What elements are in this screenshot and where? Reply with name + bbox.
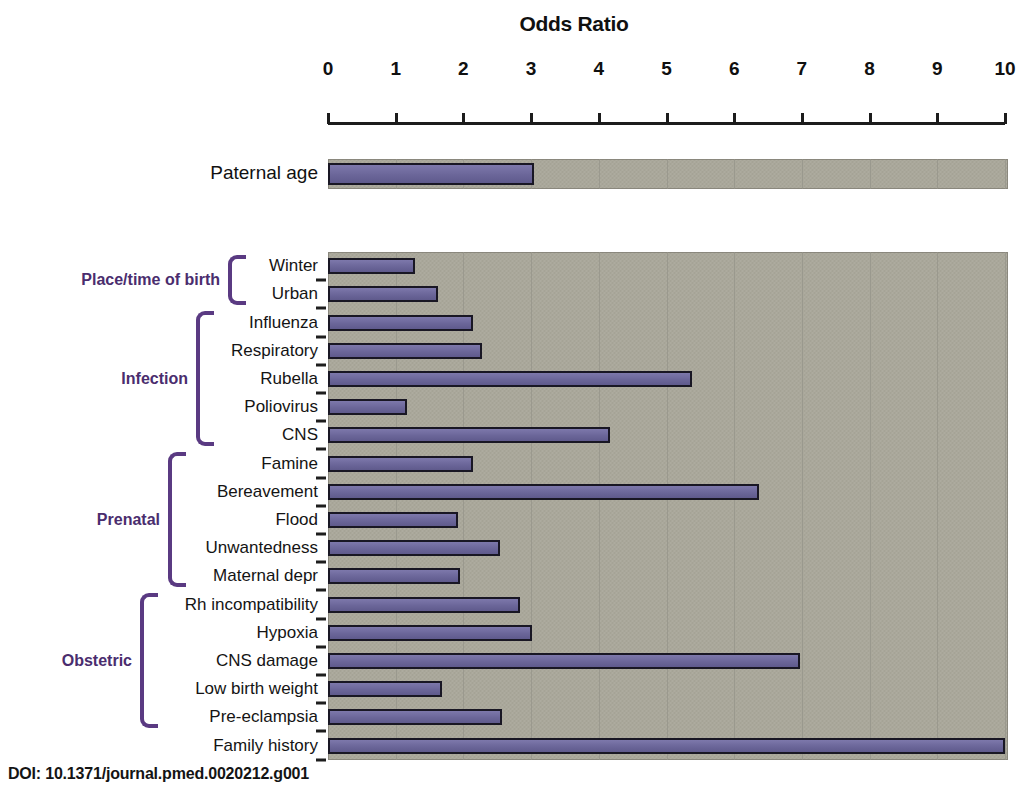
x-axis-tick-10	[1004, 113, 1007, 124]
gridline-10	[1005, 252, 1006, 760]
category-label-bereavement: Bereavement	[60, 482, 318, 502]
gridline-8	[870, 252, 871, 760]
category-label-cns: CNS	[60, 425, 318, 445]
category-tick	[316, 448, 326, 451]
x-axis-tick-4	[598, 113, 601, 124]
chart-title: Odds Ratio	[0, 12, 1028, 36]
category-label-maternal-depr: Maternal depr	[60, 566, 318, 586]
bar-maternal-depr	[328, 568, 460, 584]
category-tick	[316, 702, 326, 705]
category-tick	[316, 504, 326, 507]
group-label-infection: Infection	[0, 370, 188, 388]
x-axis-tick-1	[395, 113, 398, 124]
category-tick	[316, 674, 326, 677]
group-label-prenatal: Prenatal	[0, 511, 160, 529]
category-tick	[316, 335, 326, 338]
group-bracket-prenatal	[168, 452, 186, 587]
odds-ratio-figure: Odds Ratio 012345678910 Paternal age Win…	[0, 0, 1028, 796]
x-axis-tick-2	[462, 113, 465, 124]
group-label-obstetric: Obstetric	[0, 652, 132, 670]
category-tick	[316, 420, 326, 423]
x-axis-tick-9	[936, 113, 939, 124]
x-axis-tick-0	[327, 113, 330, 124]
category-label-family-history: Family history	[60, 736, 318, 756]
x-axis-tick-5	[666, 113, 669, 124]
group-bracket-place-time-of-birth	[228, 255, 246, 305]
category-tick	[316, 617, 326, 620]
x-tick-label-5: 5	[661, 58, 672, 80]
x-tick-label-10: 10	[994, 58, 1015, 80]
category-tick	[316, 476, 326, 479]
category-label-low-birth-weight: Low birth weight	[60, 679, 318, 699]
bar-respiratory	[328, 343, 482, 359]
category-label-influenza: Influenza	[60, 313, 318, 333]
category-label-hypoxia: Hypoxia	[60, 623, 318, 643]
bar-influenza	[328, 315, 473, 331]
category-tick	[316, 730, 326, 733]
group-label-place-time-of-birth: Place/time of birth	[0, 271, 220, 289]
gridline-6	[734, 252, 735, 760]
x-axis-tick-6	[733, 113, 736, 124]
bar-unwantedness	[328, 540, 500, 556]
category-tick	[316, 561, 326, 564]
x-tick-label-4: 4	[594, 58, 605, 80]
category-tick	[316, 645, 326, 648]
gridline-5	[667, 252, 668, 760]
x-tick-label-3: 3	[526, 58, 537, 80]
category-tick	[316, 392, 326, 395]
gridline-4	[599, 252, 600, 760]
category-tick	[316, 307, 326, 310]
category-label-pre-eclampsia: Pre-eclampsia	[60, 707, 318, 727]
bar-urban	[328, 286, 438, 302]
bar-winter	[328, 258, 415, 274]
x-axis-tick-7	[801, 113, 804, 124]
x-tick-label-7: 7	[797, 58, 808, 80]
bar-paternal-age	[328, 163, 534, 185]
paternal-age-label: Paternal age	[120, 162, 318, 184]
bar-pre-eclampsia	[328, 709, 502, 725]
category-label-rh-incompatibility: Rh incompatibility	[60, 595, 318, 615]
category-tick	[316, 279, 326, 282]
x-axis-tick-labels: 012345678910	[0, 58, 1028, 84]
x-tick-label-2: 2	[458, 58, 469, 80]
gridline-9	[937, 252, 938, 760]
bar-bereavement	[328, 484, 759, 500]
gridline-5	[667, 159, 668, 189]
x-axis-tick-8	[869, 113, 872, 124]
category-label-famine: Famine	[60, 454, 318, 474]
gridline-8	[870, 159, 871, 189]
gridline-10	[1005, 159, 1006, 189]
bar-hypoxia	[328, 625, 532, 641]
category-label-poliovirus: Poliovirus	[60, 397, 318, 417]
doi-caption: DOI: 10.1371/journal.pmed.0020212.g001	[8, 765, 309, 783]
chart-title-text: Odds Ratio	[519, 12, 628, 35]
bar-famine	[328, 456, 473, 472]
category-tick	[316, 363, 326, 366]
bar-rh-incompatibility	[328, 597, 520, 613]
gridline-4	[599, 159, 600, 189]
group-bracket-obstetric	[140, 593, 158, 728]
x-axis-tick-3	[530, 113, 533, 124]
category-tick	[316, 533, 326, 536]
bar-rubella	[328, 371, 692, 387]
gridline-3	[531, 252, 532, 760]
x-tick-label-8: 8	[864, 58, 875, 80]
bar-family-history	[328, 738, 1005, 754]
x-tick-label-9: 9	[932, 58, 943, 80]
bar-cns	[328, 427, 610, 443]
x-tick-label-0: 0	[323, 58, 334, 80]
category-label-respiratory: Respiratory	[60, 341, 318, 361]
bar-flood	[328, 512, 458, 528]
gridline-7	[802, 252, 803, 760]
gridline-7	[802, 159, 803, 189]
bar-poliovirus	[328, 399, 407, 415]
bar-low-birth-weight	[328, 681, 442, 697]
category-tick	[316, 758, 326, 761]
gridline-6	[734, 159, 735, 189]
gridline-9	[937, 159, 938, 189]
group-bracket-infection	[196, 311, 214, 446]
bar-cns-damage	[328, 653, 800, 669]
category-tick	[316, 589, 326, 592]
category-label-unwantedness: Unwantedness	[60, 538, 318, 558]
x-tick-label-1: 1	[390, 58, 401, 80]
